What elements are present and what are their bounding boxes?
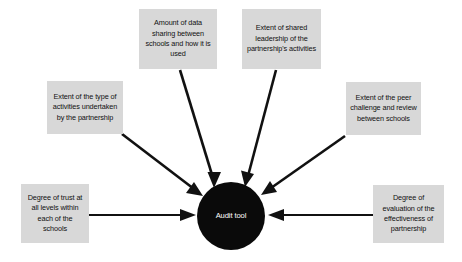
factor-box-peer-challenge: Extent of the peer challenge and review …	[346, 82, 421, 135]
factor-box-data-sharing: Amount of data sharing between schools a…	[139, 9, 217, 69]
arrow-shared-leadership	[241, 70, 276, 187]
diagram-canvas: Amount of data sharing between schools a…	[0, 0, 462, 262]
arrow-activities	[122, 134, 203, 196]
factor-box-activities: Extent of the type of activities underta…	[47, 81, 123, 134]
arrow-evaluation	[268, 209, 373, 221]
arrow-trust	[89, 209, 196, 221]
factor-label-trust: Degree of trust at all levels within eac…	[25, 193, 85, 234]
arrow-data-sharing	[180, 70, 221, 188]
audit-tool-label: Audit tool	[216, 211, 247, 220]
factor-label-evaluation: Degree of evaluation of the effectivenes…	[377, 193, 440, 234]
factor-label-peer-challenge: Extent of the peer challenge and review …	[350, 93, 417, 124]
audit-tool-node: Audit tool	[197, 182, 265, 250]
factor-box-trust: Degree of trust at all levels within eac…	[21, 184, 89, 243]
factor-box-evaluation: Degree of evaluation of the effectivenes…	[373, 185, 444, 243]
factor-label-activities: Extent of the type of activities underta…	[51, 92, 119, 123]
factor-box-shared-leadership: Extent of shared leadership of the partn…	[242, 9, 321, 69]
factor-label-shared-leadership: Extent of shared leadership of the partn…	[246, 23, 317, 54]
arrow-peer-challenge	[261, 136, 345, 195]
factor-label-data-sharing: Amount of data sharing between schools a…	[143, 18, 213, 59]
